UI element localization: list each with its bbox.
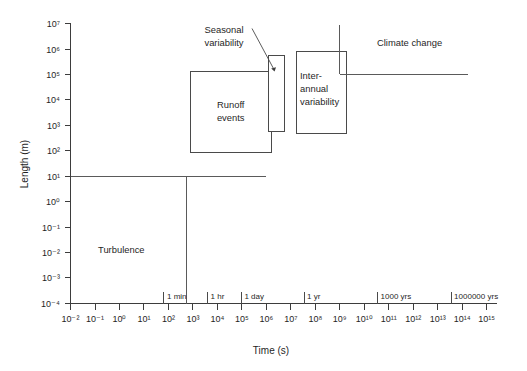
seasonal-variability-leader-line <box>252 29 274 70</box>
region-label-line: Runoff <box>217 99 245 110</box>
region-label-line: events <box>217 112 245 123</box>
time-marker-label: 1 day <box>244 292 264 301</box>
x-tick-label: 10⁻² <box>61 314 79 324</box>
x-tick-label: 10⁻¹ <box>86 314 104 324</box>
region-label-line: variability <box>204 37 243 48</box>
y-tick-label: 10⁶ <box>46 45 60 55</box>
region-label-climate-change: Climate change <box>377 37 442 48</box>
time-marker-label: 1 yr <box>307 292 321 301</box>
y-axis-title: Length (m) <box>19 140 30 188</box>
x-tick-label: 10⁵ <box>235 314 249 324</box>
y-tick-label: 10⁻³ <box>42 273 60 283</box>
x-tick-label: 10⁷ <box>284 314 297 324</box>
x-axis-title: Time (s) <box>253 345 289 356</box>
y-tick-label: 10³ <box>47 121 60 131</box>
x-tick-label: 10⁹ <box>333 314 347 324</box>
y-tick-label: 10⁵ <box>46 70 60 80</box>
region-label-seasonal-variability: Seasonal variability <box>204 24 243 48</box>
x-axis-ticks <box>71 304 487 310</box>
x-tick-label: 10¹⁵ <box>478 314 495 324</box>
x-tick-label: 10¹ <box>137 314 150 324</box>
region-label-line: Inter- <box>300 70 322 81</box>
y-tick-labels: 10⁷ 10⁶ 10⁵ 10⁴ 10³ 10² 10¹ 10⁰ 10⁻¹ 10⁻… <box>41 19 60 309</box>
figure-canvas: 10⁷ 10⁶ 10⁵ 10⁴ 10³ 10² 10¹ 10⁰ 10⁻¹ 10⁻… <box>0 0 527 371</box>
time-marker-labels: 1 min 1 hr 1 day 1 yr 1000 yrs 1000000 y… <box>167 292 498 301</box>
x-tick-labels: 10⁻² 10⁻¹ 10⁰ 10¹ 10² 10³ 10⁴ 10⁵ 10⁶ 10… <box>61 314 495 324</box>
y-axis-ticks <box>65 24 71 304</box>
y-tick-label: 10¹ <box>47 172 60 182</box>
y-tick-label: 10⁷ <box>47 19 60 29</box>
region-label-turbulence: Turbulence <box>98 244 145 255</box>
x-tick-label: 10⁶ <box>260 314 274 324</box>
x-tick-label: 10⁸ <box>308 314 322 324</box>
region-label-line: variability <box>300 96 339 107</box>
x-tick-label: 10² <box>162 314 175 324</box>
x-tick-label: 10¹⁴ <box>454 314 471 324</box>
y-tick-label: 10⁻¹ <box>42 223 60 233</box>
x-tick-label: 10¹² <box>405 314 421 324</box>
time-marker-label: 1000000 yrs <box>454 292 498 301</box>
y-tick-label: 10⁰ <box>46 197 60 207</box>
y-tick-label: 10² <box>47 146 60 156</box>
time-marker-label: 1 hr <box>211 292 225 301</box>
log-log-scale-diagram: 10⁷ 10⁶ 10⁵ 10⁴ 10³ 10² 10¹ 10⁰ 10⁻¹ 10⁻… <box>0 0 527 371</box>
x-tick-label: 10¹³ <box>430 314 446 324</box>
x-tick-label: 10¹¹ <box>381 314 397 324</box>
y-tick-label: 10⁻⁴ <box>41 299 60 309</box>
x-tick-label: 10⁰ <box>112 314 126 324</box>
region-label-line: annual <box>300 83 328 94</box>
x-tick-label: 10⁴ <box>210 314 224 324</box>
x-tick-label: 10³ <box>186 314 199 324</box>
time-marker-label: 1 min <box>167 292 187 301</box>
x-tick-label: 10¹⁰ <box>356 314 373 324</box>
y-tick-label: 10⁻² <box>42 248 60 258</box>
time-marker-label: 1000 yrs <box>381 292 412 301</box>
region-label-line: Seasonal <box>204 24 243 35</box>
y-tick-label: 10⁴ <box>46 95 60 105</box>
region-box-seasonal-variability <box>269 56 285 132</box>
